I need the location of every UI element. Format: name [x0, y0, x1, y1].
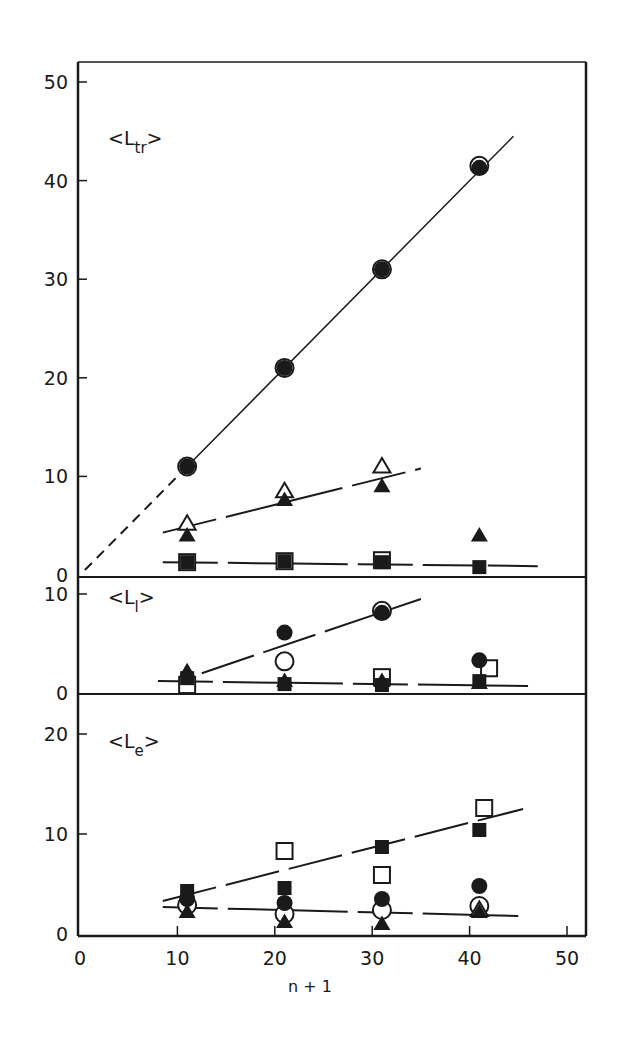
marker-filled-circle [179, 459, 195, 475]
marker-filled-square [375, 840, 389, 854]
marker-open-square [476, 800, 492, 816]
marker-filled-circle [471, 160, 487, 176]
y-tick-label: 0 [56, 682, 68, 704]
y-tick-label: 10 [44, 465, 68, 487]
y-tick-label: 30 [44, 268, 68, 290]
marker-filled-circle [277, 360, 293, 376]
marker-filled-square [278, 554, 292, 568]
y-tick-label: 40 [44, 170, 68, 192]
x-tick-label: 30 [360, 947, 384, 969]
series-circle-open [178, 896, 488, 923]
panel-label: <Le> [108, 730, 160, 760]
panel-label-main: <L [108, 730, 135, 752]
panel-label: <Ll> [108, 586, 155, 616]
panel-label-subscript: e [135, 742, 144, 760]
panel-label: <Ltr> [108, 127, 163, 157]
fit-line [163, 469, 421, 533]
y-tick-label: 0 [56, 923, 68, 945]
marker-filled-square [278, 881, 292, 895]
marker-filled-circle [471, 652, 487, 668]
marker-filled-triangle [471, 527, 488, 541]
fit-line [163, 809, 523, 901]
marker-filled-square [472, 560, 486, 574]
y-tick-label: 50 [44, 71, 68, 93]
x-tick-label: 40 [458, 947, 482, 969]
x-axis-title: n + 1 [288, 977, 332, 996]
series-circle-open [276, 602, 391, 670]
x-tick-label: 20 [263, 947, 287, 969]
marker-open-square [374, 867, 390, 883]
x-tick-label: 50 [555, 947, 579, 969]
marker-filled-triangle [179, 663, 196, 677]
marker-open-circle [276, 652, 294, 670]
marker-filled-circle [374, 261, 390, 277]
panel-label-subscript: tr [135, 139, 148, 157]
panel-Le: 01020<Le> [44, 723, 523, 945]
y-tick-label: 10 [44, 583, 68, 605]
chart-panels: 01020304050<Ltr>010<Ll>01020<Le> [44, 71, 538, 945]
chart: 01020304050<Ltr>010<Ll>01020<Le> 0102030… [0, 0, 621, 1037]
y-tick-label: 20 [44, 367, 68, 389]
panel-Ltr: 01020304050<Ltr> [44, 71, 538, 586]
series-square-filled [180, 823, 486, 898]
series-circle-filled [179, 878, 487, 911]
marker-filled-circle [277, 895, 293, 911]
y-tick-label: 10 [44, 823, 68, 845]
marker-filled-circle [374, 891, 390, 907]
x-axis: 01020304050 [74, 926, 579, 969]
panel-label-close: > [144, 730, 160, 752]
fit-line [163, 907, 519, 916]
marker-open-triangle [373, 458, 390, 472]
marker-filled-square [472, 823, 486, 837]
series-triangle-filled [179, 478, 488, 542]
marker-open-square [277, 843, 293, 859]
x-tick-label: 0 [74, 947, 86, 969]
marker-filled-square [180, 884, 194, 898]
marker-filled-square [180, 555, 194, 569]
panel-label-close: > [139, 586, 155, 608]
fit-line [187, 136, 513, 466]
marker-filled-circle [277, 625, 293, 641]
series-triangle-filled [179, 904, 488, 930]
panel-Ll: 010<Ll> [44, 583, 528, 704]
marker-filled-circle [374, 605, 390, 621]
chart-frame [78, 62, 586, 936]
y-tick-label: 20 [44, 723, 68, 745]
x-tick-label: 10 [165, 947, 189, 969]
panel-label-main: <L [108, 586, 135, 608]
marker-filled-circle [471, 878, 487, 894]
panel-label-close: > [147, 127, 163, 149]
marker-filled-square [375, 555, 389, 569]
fit-line [85, 467, 187, 571]
panel-label-main: <L [108, 127, 135, 149]
